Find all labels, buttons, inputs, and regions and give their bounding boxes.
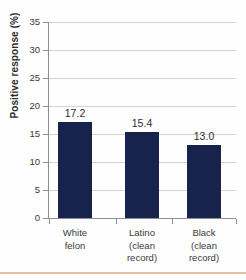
bar	[58, 122, 92, 218]
x-axis-category-label: Latino (clean record)	[109, 227, 175, 265]
x-axis-tick	[236, 219, 237, 224]
y-axis-tick	[43, 134, 49, 135]
y-axis-tick	[43, 190, 49, 191]
bar-value-label: 15.4	[117, 118, 167, 129]
x-axis-category-label: Black (clean record)	[171, 227, 237, 265]
x-axis-tick	[49, 219, 50, 224]
bar-chart: Positive response (%) 35302520151050 17.…	[0, 0, 246, 280]
gridline	[49, 22, 236, 23]
x-axis-tick	[116, 219, 117, 224]
y-axis-tick	[43, 106, 49, 107]
y-axis-tick-label: 25	[16, 73, 40, 83]
y-axis-tick	[43, 162, 49, 163]
y-axis-tick-label: 10	[16, 157, 40, 167]
y-axis-tick	[43, 50, 49, 51]
bar-value-label: 13.0	[179, 131, 229, 142]
y-axis-tick-label: 20	[16, 101, 40, 111]
bar	[125, 132, 159, 218]
bar-value-label: 17.2	[50, 108, 100, 119]
x-axis-category-label: White felon	[42, 227, 108, 252]
y-axis-tick-label: 0	[16, 213, 40, 223]
y-axis-tick-label: 35	[16, 17, 40, 27]
x-axis-tick	[172, 219, 173, 224]
y-axis-tick-label: 5	[16, 185, 40, 195]
x-axis-line	[49, 218, 236, 219]
bar	[187, 145, 221, 218]
gridline	[49, 50, 236, 51]
bottom-rule	[0, 272, 246, 274]
y-axis-tick	[43, 22, 49, 23]
y-axis-tick	[43, 78, 49, 79]
y-axis-tick-label: 30	[16, 45, 40, 55]
y-axis-tick-label: 15	[16, 129, 40, 139]
gridline	[49, 78, 236, 79]
